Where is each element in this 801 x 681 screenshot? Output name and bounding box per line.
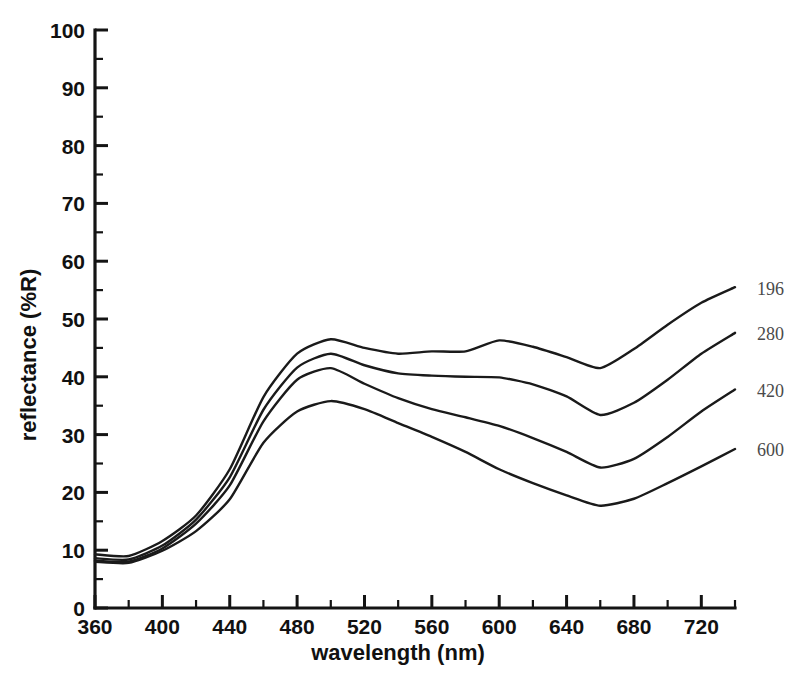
x-tick-label: 480 — [280, 615, 315, 638]
x-tick-label: 360 — [77, 615, 112, 638]
series-line-420 — [95, 368, 735, 562]
y-tick-label: 30 — [62, 424, 85, 447]
chart-series-labels: 196280420600 — [757, 279, 784, 460]
x-tick-label: 640 — [549, 615, 584, 638]
y-tick-label: 70 — [62, 192, 85, 215]
x-tick-label: 720 — [684, 615, 719, 638]
y-axis-title: reflectance (%R) — [16, 269, 41, 441]
chart-page: 0102030405060708090100360400440480520560… — [0, 0, 801, 681]
y-tick-label: 60 — [62, 250, 85, 273]
x-tick-label: 400 — [145, 615, 180, 638]
x-tick-label: 560 — [414, 615, 449, 638]
x-tick-label: 680 — [616, 615, 651, 638]
chart-tick-labels: 0102030405060708090100360400440480520560… — [50, 19, 719, 638]
chart-series-lines — [95, 287, 735, 563]
x-tick-label: 600 — [482, 615, 517, 638]
y-tick-label: 20 — [62, 481, 85, 504]
series-label-196: 196 — [757, 279, 784, 299]
x-axis-title: wavelength (nm) — [310, 640, 485, 665]
y-tick-label: 80 — [62, 135, 85, 158]
y-tick-label: 90 — [62, 77, 85, 100]
y-tick-label: 100 — [50, 19, 85, 42]
y-tick-label: 10 — [62, 539, 85, 562]
series-label-280: 280 — [757, 324, 784, 344]
x-tick-label: 520 — [347, 615, 382, 638]
series-label-600: 600 — [757, 440, 784, 460]
reflectance-spectrum-chart: 0102030405060708090100360400440480520560… — [0, 0, 801, 681]
y-tick-label: 50 — [62, 308, 85, 331]
x-tick-label: 440 — [212, 615, 247, 638]
series-line-600 — [95, 401, 735, 563]
series-label-420: 420 — [757, 381, 784, 401]
y-tick-label: 40 — [62, 366, 85, 389]
series-line-196 — [95, 287, 735, 556]
series-line-280 — [95, 333, 735, 560]
